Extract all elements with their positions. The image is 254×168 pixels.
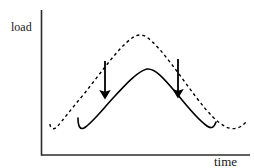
series-shaped-load-curve [78, 69, 216, 129]
x-axis-label: time [214, 155, 237, 168]
plot-canvas [0, 0, 254, 168]
y-axis-label: load [11, 21, 32, 33]
load-shaping-figure: load time [0, 0, 254, 168]
series-unshaped-load-curve [50, 35, 246, 129]
